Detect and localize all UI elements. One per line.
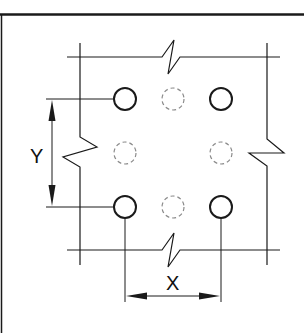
bolt-pattern-diagram: Y X	[0, 0, 304, 333]
top-edge-break-line	[67, 40, 280, 74]
bottom-edge-break-line	[67, 233, 280, 267]
optional-hole-middle-left	[114, 142, 136, 164]
frame-border	[0, 14, 304, 333]
solid-holes	[114, 88, 232, 218]
arrow-up-icon	[49, 100, 56, 121]
y-dimension	[49, 100, 56, 206]
bolt-hole-top-left	[114, 88, 136, 110]
optional-hole-middle-right	[210, 142, 232, 164]
x-dimension-label: X	[166, 272, 179, 294]
optional-hole-bottom-center	[162, 196, 184, 218]
bolt-hole-top-right	[210, 88, 232, 110]
plate-outline	[63, 40, 284, 267]
y-dimension-label: Y	[30, 145, 43, 167]
arrow-left-icon	[126, 293, 147, 300]
arrow-right-icon	[199, 293, 220, 300]
arrow-down-icon	[49, 185, 56, 206]
bolt-hole-bottom-left	[114, 196, 136, 218]
left-edge-break-line	[63, 43, 97, 265]
optional-hole-top-center	[162, 88, 184, 110]
bolt-hole-bottom-right	[210, 196, 232, 218]
right-edge-break-line	[249, 43, 284, 265]
